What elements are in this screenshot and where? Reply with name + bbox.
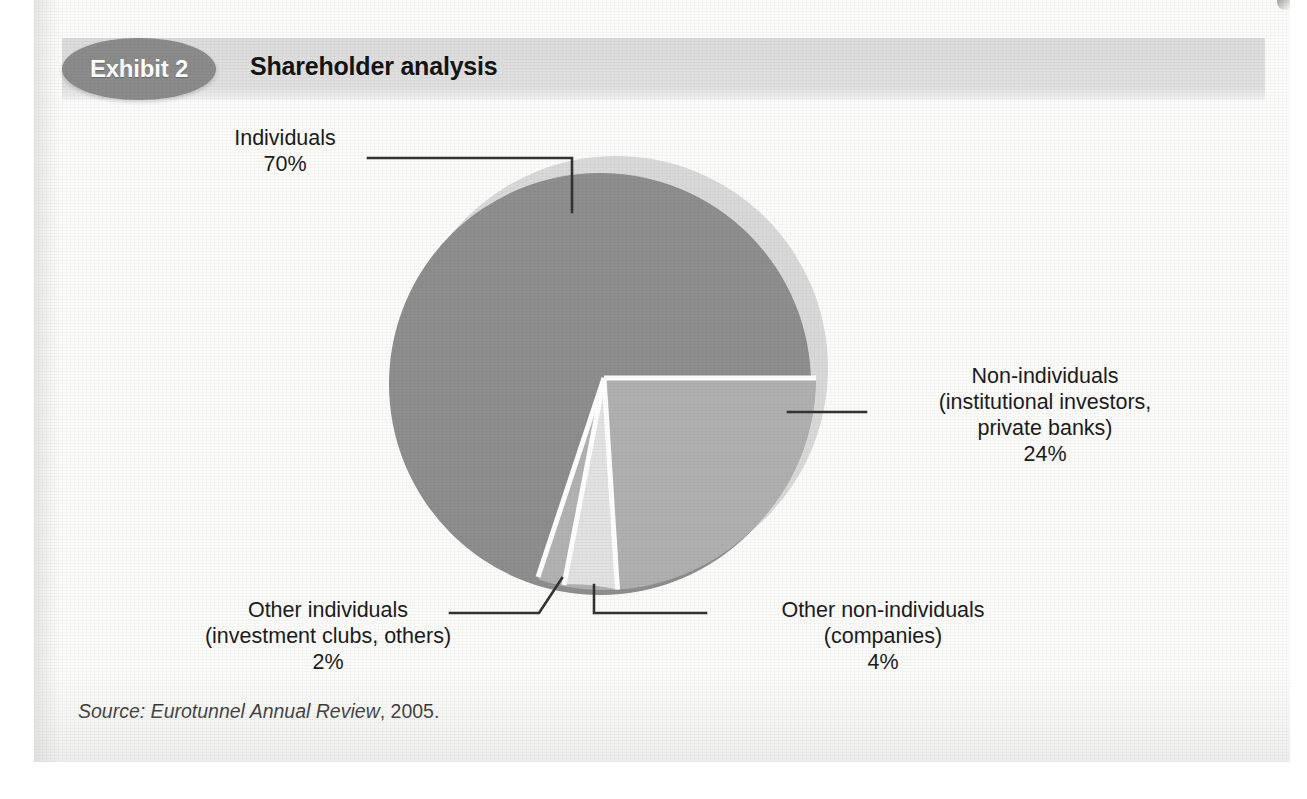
label-other-individuals-line2: (investment clubs, others) bbox=[158, 623, 498, 649]
label-other-individuals-value: 2% bbox=[158, 649, 498, 675]
label-non-individuals-line1: Non-individuals bbox=[880, 363, 1210, 389]
exhibit-page: Exhibit 2 Shareholder analysis Individua… bbox=[0, 0, 1307, 799]
label-other-individuals-line1: Other individuals bbox=[158, 597, 498, 623]
label-non-individuals-value: 24% bbox=[880, 441, 1210, 467]
label-other-individuals: Other individuals (investment clubs, oth… bbox=[158, 597, 498, 675]
label-other-non-individuals-value: 4% bbox=[718, 649, 1048, 675]
exhibit-header-bar-fade bbox=[62, 38, 1265, 100]
label-non-individuals-line2: (institutional investors, bbox=[880, 389, 1210, 415]
label-other-non-individuals-line2: (companies) bbox=[718, 623, 1048, 649]
label-non-individuals-line3: private banks) bbox=[880, 415, 1210, 441]
label-other-non-individuals-line1: Other non-individuals bbox=[718, 597, 1048, 623]
source-year: , 2005. bbox=[380, 700, 440, 722]
exhibit-title: Shareholder analysis bbox=[250, 52, 498, 81]
page-right-edge bbox=[1290, 0, 1307, 799]
source-italic: Source: Eurotunnel Annual Review bbox=[78, 700, 380, 722]
label-other-non-individuals: Other non-individuals (companies) 4% bbox=[718, 597, 1048, 675]
exhibit-badge: Exhibit 2 bbox=[62, 38, 216, 100]
label-individuals-line1: Individuals bbox=[160, 125, 410, 151]
pie-slice-non-individuals[interactable] bbox=[604, 378, 816, 590]
label-non-individuals: Non-individuals (institutional investors… bbox=[880, 363, 1210, 467]
label-individuals-value: 70% bbox=[160, 151, 410, 177]
exhibit-badge-label: Exhibit 2 bbox=[90, 55, 188, 83]
source-note: Source: Eurotunnel Annual Review, 2005. bbox=[78, 700, 439, 723]
label-individuals: Individuals 70% bbox=[160, 125, 410, 177]
